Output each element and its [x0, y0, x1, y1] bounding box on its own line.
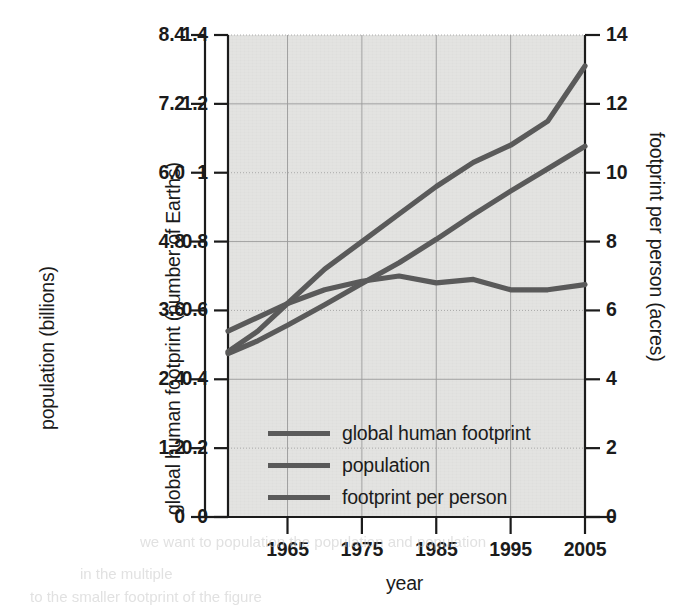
- legend-swatch-icon: [268, 431, 330, 436]
- tick-label-footprint-per-person: 10: [606, 161, 627, 184]
- chart-figure: 8.47.26.04.83.62.41.20 population (billi…: [0, 0, 698, 610]
- legend-item: global human footprint: [268, 417, 531, 449]
- tick-label-footprint-per-person: 12: [606, 92, 627, 115]
- axis-title-year: year: [386, 572, 423, 595]
- page-bleed-line-1: we want to population the population and…: [140, 533, 486, 550]
- tick-label-footprint-per-person: 0: [606, 505, 617, 528]
- page-bleed-line-3: to the smaller footprint of the figure: [30, 588, 262, 605]
- tick-label-footprint-per-person: 6: [606, 298, 617, 321]
- legend-label: population: [342, 454, 430, 477]
- tick-label-footprint: 0.2: [181, 436, 208, 459]
- tick-label-footprint: 0: [197, 505, 208, 528]
- tick-label-footprint-per-person: 2: [606, 436, 617, 459]
- chart-legend: global human footprintpopulationfootprin…: [268, 417, 531, 513]
- axis-title-footprint-per-person: footprint per person (acres): [645, 132, 668, 362]
- tick-label-year: 1995: [483, 538, 539, 561]
- tick-label-footprint-per-person: 14: [606, 23, 627, 46]
- tick-label-footprint: 1: [197, 161, 208, 184]
- tick-label-footprint-per-person: 8: [606, 230, 617, 253]
- tick-label-year: 2005: [557, 538, 613, 561]
- tick-label-footprint: 0.6: [181, 298, 208, 321]
- page-bleed-line-2: in the multiple: [80, 565, 173, 582]
- tick-label-footprint: 1.4: [181, 23, 208, 46]
- series-line-footprint-per-person: [228, 276, 585, 331]
- legend-item: footprint per person: [268, 481, 531, 513]
- tick-label-footprint-per-person: 4: [606, 367, 617, 390]
- axis-title-global-human-footprint: global human footprint (number of Earths…: [162, 162, 185, 515]
- legend-swatch-icon: [268, 495, 330, 500]
- chart-canvas: [0, 0, 698, 610]
- tick-label-footprint: 0.4: [181, 367, 208, 390]
- axis-title-population: population (billions): [36, 266, 59, 430]
- legend-label: global human footprint: [342, 422, 531, 445]
- tick-label-footprint: 0.8: [181, 230, 208, 253]
- legend-label: footprint per person: [342, 486, 507, 509]
- tick-label-footprint: 1.2: [181, 92, 208, 115]
- legend-item: population: [268, 449, 531, 481]
- legend-swatch-icon: [268, 463, 330, 468]
- series-line-population: [228, 146, 585, 353]
